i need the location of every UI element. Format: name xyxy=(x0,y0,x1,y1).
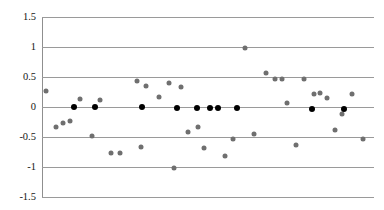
data-point xyxy=(67,119,72,124)
data-point xyxy=(138,145,143,150)
data-point xyxy=(194,105,200,111)
data-point xyxy=(285,101,290,106)
data-point xyxy=(77,97,82,102)
data-point xyxy=(134,79,139,84)
data-point xyxy=(90,134,95,139)
data-point xyxy=(302,76,307,81)
data-point xyxy=(341,106,347,112)
data-point xyxy=(195,125,200,130)
y-tick-label: 1 xyxy=(0,41,36,52)
data-point xyxy=(280,76,285,81)
data-point xyxy=(143,84,148,89)
data-point xyxy=(118,150,123,155)
y-tick-label: -0.5 xyxy=(0,131,36,142)
data-point xyxy=(139,104,145,110)
data-point xyxy=(98,97,103,102)
data-point xyxy=(360,136,365,141)
data-point xyxy=(207,105,213,111)
data-point xyxy=(340,112,345,117)
data-point xyxy=(234,105,240,111)
data-point xyxy=(172,166,177,171)
data-point xyxy=(186,129,191,134)
data-point xyxy=(293,143,298,148)
data-point xyxy=(242,45,247,50)
data-point xyxy=(178,85,183,90)
data-point xyxy=(109,150,114,155)
data-point xyxy=(324,96,329,101)
data-point xyxy=(264,71,269,76)
data-point xyxy=(222,154,227,159)
data-point xyxy=(230,136,235,141)
data-point xyxy=(92,104,98,110)
gridline-neg1_5 xyxy=(42,197,374,198)
data-point xyxy=(273,76,278,81)
data-point xyxy=(43,89,48,94)
data-point xyxy=(174,105,180,111)
data-point xyxy=(71,104,77,110)
data-point xyxy=(202,145,207,150)
data-point xyxy=(156,94,161,99)
y-tick-label: -1.5 xyxy=(0,191,36,202)
data-point xyxy=(215,105,221,111)
data-point xyxy=(333,127,338,132)
data-point xyxy=(317,91,322,96)
data-point xyxy=(252,132,257,137)
y-tick-label: 0.5 xyxy=(0,71,36,82)
data-point xyxy=(309,106,315,112)
data-point xyxy=(60,120,65,125)
data-point xyxy=(311,91,316,96)
data-point xyxy=(166,81,171,86)
y-tick-label: 1.5 xyxy=(0,11,36,22)
y-tick-label: -1 xyxy=(0,161,36,172)
data-point xyxy=(53,124,58,129)
scatter-chart: 1.510.50-0.5-1-1.5 xyxy=(0,0,384,210)
data-point xyxy=(350,92,355,97)
y-tick-label: 0 xyxy=(0,101,36,112)
